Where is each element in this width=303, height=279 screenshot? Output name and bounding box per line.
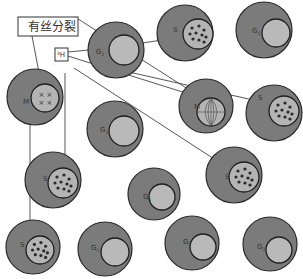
dna-dot [62, 173, 65, 176]
dna-dot [280, 108, 283, 111]
nucleus [149, 184, 175, 210]
dna-dot [67, 177, 70, 180]
dna-dot [44, 245, 47, 248]
cell-g2: G2 [243, 217, 297, 271]
dna-dot [202, 40, 205, 43]
phase-label: S [20, 241, 25, 249]
phase-label: M [194, 103, 200, 111]
phase-label: S [225, 173, 230, 181]
dna-dot [234, 175, 237, 178]
phase-label: S [258, 94, 263, 102]
chromosome-x: × [47, 99, 53, 107]
dna-dot [248, 171, 251, 174]
cell-s: S [25, 152, 81, 208]
cell-g2: G2 [88, 22, 144, 78]
phase-subscript: 1 [188, 242, 191, 247]
cell-m: ××××M [7, 69, 63, 125]
nucleus [109, 116, 139, 146]
dna-dot [243, 167, 246, 170]
cell-s: S [6, 220, 60, 274]
phase-subscript: 2 [262, 247, 265, 252]
cell-cycle-diagram: G2SG1××××MG1MSSG1SSG1G1G2 有丝分裂 ³H [0, 0, 303, 279]
chromosome-x: × [39, 99, 45, 107]
phase-subscript: 2 [101, 52, 104, 57]
nucleus [183, 19, 213, 49]
nucleus [266, 237, 292, 263]
dna-dot [200, 33, 203, 36]
phase-subscript: 1 [105, 130, 108, 135]
dna-dot [39, 254, 42, 257]
cell-s: S [246, 85, 302, 141]
phase-label: S [173, 26, 178, 34]
cell-g1: G1 [165, 216, 219, 270]
dna-dot [283, 101, 286, 104]
dna-dot [246, 176, 249, 179]
cell-g1: G1 [78, 222, 132, 276]
cell-m: M [179, 79, 233, 133]
dna-dot [62, 187, 65, 190]
dna-dot [250, 178, 253, 181]
dna-dot [194, 31, 197, 34]
nucleus [109, 35, 139, 65]
nucleus [262, 19, 290, 47]
dna-dot [33, 243, 36, 246]
cell-g1: G1 [87, 101, 143, 157]
dna-dot [55, 175, 58, 178]
dna-dot [274, 109, 277, 112]
tritium-label-text: ³H [57, 51, 65, 59]
dna-dot [191, 37, 194, 40]
mitosis-label-text: 有丝分裂 [28, 20, 76, 34]
dna-dot [288, 105, 291, 108]
dna-dot [53, 181, 56, 184]
nucleus [26, 236, 54, 264]
dna-dot [202, 28, 205, 31]
dna-dot [56, 186, 59, 189]
nucleus [48, 168, 78, 198]
dna-dot [34, 253, 37, 256]
nucleus [190, 234, 216, 260]
dna-dot [236, 169, 239, 172]
cell-g1: G1 [128, 168, 180, 220]
dna-dot [188, 32, 191, 35]
dna-dot [190, 26, 193, 29]
phase-label: S [43, 175, 48, 183]
cell-s: S [206, 147, 262, 203]
dna-dot [197, 24, 200, 27]
dna-dot [59, 180, 62, 183]
dna-dot [44, 256, 47, 259]
phase-subscript: 1 [257, 31, 260, 36]
nucleus [269, 96, 299, 126]
dna-dot [39, 241, 42, 244]
dna-dot [197, 38, 200, 41]
dna-dot [67, 189, 70, 192]
dna-dot [237, 180, 240, 183]
dna-dot [204, 35, 207, 38]
tritium-label: ³H [55, 48, 68, 61]
dna-dot [288, 117, 291, 120]
dna-dot [69, 184, 72, 187]
phase-label: M [23, 98, 29, 106]
phase-subscript: 1 [96, 248, 99, 253]
dna-dot [286, 110, 289, 113]
dna-dot [276, 103, 279, 106]
phase-subscript: 1 [148, 197, 151, 202]
dna-dot [277, 114, 280, 117]
dna-dot [42, 249, 45, 252]
dna-dot [31, 248, 34, 251]
nucleus [31, 84, 59, 112]
nucleus [229, 162, 259, 192]
dna-dot [248, 183, 251, 186]
nucleus [101, 238, 129, 266]
cell-g1: G1 [236, 2, 292, 58]
chromosome-x: × [47, 91, 53, 99]
dna-dot [283, 115, 286, 118]
dna-dot [243, 181, 246, 184]
cell-s: S [157, 5, 213, 61]
mitosis-label: 有丝分裂 [18, 17, 78, 36]
dna-dot [240, 174, 243, 177]
dna-dot [37, 247, 40, 250]
dna-dot [46, 251, 49, 254]
dna-dot [290, 112, 293, 115]
chromosome-x: × [39, 91, 45, 99]
dna-dot [65, 182, 68, 185]
